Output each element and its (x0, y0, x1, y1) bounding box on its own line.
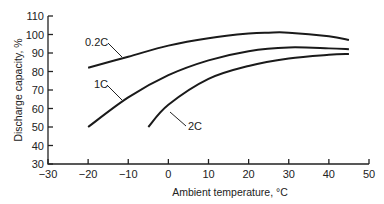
curve-label: 2C (188, 120, 202, 132)
y-tick-label: 40 (32, 140, 44, 152)
x-tick-label: 40 (323, 168, 335, 180)
leader-line (108, 43, 122, 57)
curve-1C (88, 47, 349, 127)
y-axis-label: Discharge capacity, % (12, 38, 24, 141)
curve-0-2C (88, 32, 349, 67)
x-tick-label: −20 (79, 168, 98, 180)
x-tick-label: 10 (202, 168, 214, 180)
curve-label: 0.2C (85, 36, 108, 48)
curve-label: 1C (94, 78, 108, 90)
y-tick-label: 50 (32, 121, 44, 133)
y-tick-label: 110 (26, 10, 44, 22)
x-tick-label: 20 (243, 168, 255, 180)
y-tick-label: 60 (32, 103, 44, 115)
y-tick-label: 80 (32, 66, 44, 78)
x-tick-label: 30 (283, 168, 295, 180)
leader-line (170, 112, 186, 126)
y-tick-label: 90 (32, 47, 44, 59)
leader-line (107, 85, 122, 100)
curves: 0.2C1C2C (85, 32, 349, 132)
y-tick-label: 70 (32, 84, 44, 96)
x-tick-label: 50 (363, 168, 375, 180)
curve-2C (148, 54, 349, 127)
x-tick-label: −30 (39, 168, 58, 180)
chart: 30405060708090100110−30−20−1001020304050… (0, 0, 384, 204)
x-tick-label: 0 (165, 168, 171, 180)
y-tick-label: 100 (26, 29, 44, 41)
x-tick-label: −10 (119, 168, 138, 180)
x-axis-label: Ambient temperature, °C (172, 186, 288, 198)
